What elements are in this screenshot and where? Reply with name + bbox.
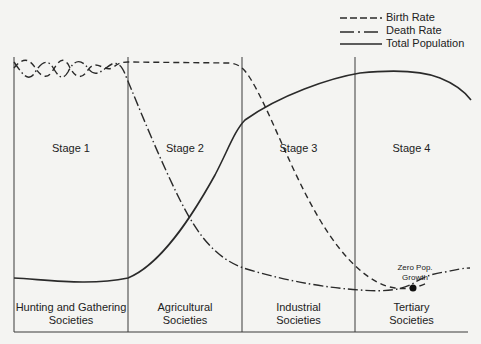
society-line1: Hunting and Gathering — [14, 301, 128, 314]
society-line2: Societies — [242, 314, 355, 327]
society-line1: Industrial — [242, 301, 355, 314]
stage-4-label: Stage 4 — [355, 142, 468, 155]
stage-2-label: Stage 2 — [128, 142, 242, 155]
demographic-transition-diagram — [0, 0, 481, 344]
zero-pop-growth-marker — [410, 285, 417, 292]
zero-pop-growth-annotation: Zero Pop. Growth — [385, 263, 445, 283]
annotation-line1: Zero Pop. — [385, 263, 445, 273]
society-line2: Societies — [128, 314, 242, 327]
society-line1: Tertiary — [355, 301, 468, 314]
society-label-stage-4: Tertiary Societies — [355, 301, 468, 327]
legend-swatches — [340, 18, 382, 44]
society-label-stage-2: Agricultural Societies — [128, 301, 242, 327]
legend-death-rate-label: Death Rate — [386, 24, 442, 36]
society-label-stage-3: Industrial Societies — [242, 301, 355, 327]
society-line1: Agricultural — [128, 301, 242, 314]
annotation-line2: Growth — [385, 273, 445, 283]
legend-total-population-label: Total Population — [386, 37, 464, 49]
legend-birth-rate-label: Birth Rate — [386, 11, 435, 23]
stage-3-label: Stage 3 — [242, 142, 355, 155]
society-line2: Societies — [355, 314, 468, 327]
society-line2: Societies — [14, 314, 128, 327]
society-label-stage-1: Hunting and Gathering Societies — [14, 301, 128, 327]
stage-1-label: Stage 1 — [14, 142, 128, 155]
stage-dividers — [14, 57, 468, 332]
birth-rate-line — [14, 60, 427, 288]
